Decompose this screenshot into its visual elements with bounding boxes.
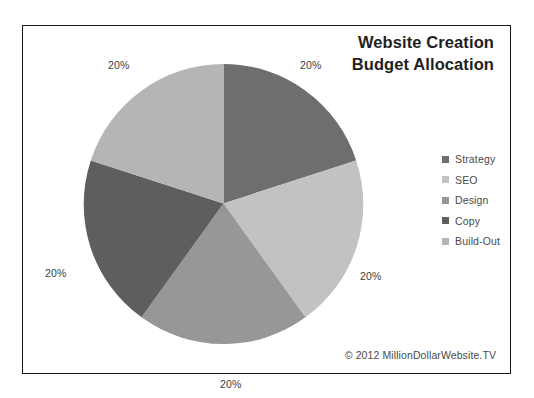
pie-label-strategy: 20%	[300, 59, 322, 71]
legend-swatch-icon	[442, 217, 449, 224]
legend-swatch-icon	[442, 238, 449, 245]
legend-label-build-out: Build-Out	[455, 235, 500, 247]
legend-label-seo: SEO	[455, 174, 478, 186]
pie-label-build-out: 20%	[108, 59, 130, 71]
legend-swatch-icon	[442, 156, 449, 163]
pie-chart-plot-area: 20% 20% 20% 20% 20%	[23, 26, 423, 375]
pie-label-seo: 20%	[360, 270, 382, 282]
legend-label-design: Design	[455, 194, 489, 206]
legend-item-strategy[interactable]: Strategy	[442, 149, 534, 170]
copyright-notice: © 2012 MillionDollarWebsite.TV	[345, 349, 496, 361]
legend-swatch-icon	[442, 197, 449, 204]
legend-label-strategy: Strategy	[455, 153, 495, 165]
legend-item-design[interactable]: Design	[442, 190, 534, 211]
chart-legend: Strategy SEO Design Copy Build-Out	[442, 149, 534, 252]
legend-label-copy: Copy	[455, 215, 480, 227]
pie-label-design: 20%	[220, 378, 242, 390]
legend-item-copy[interactable]: Copy	[442, 211, 534, 232]
legend-item-build-out[interactable]: Build-Out	[442, 231, 534, 252]
chart-frame: Website Creation Budget Allocation 20% 2…	[22, 25, 511, 374]
pie-chart-graphic	[81, 61, 366, 346]
legend-item-seo[interactable]: SEO	[442, 170, 534, 191]
legend-swatch-icon	[442, 176, 449, 183]
pie-label-copy: 20%	[45, 267, 67, 279]
